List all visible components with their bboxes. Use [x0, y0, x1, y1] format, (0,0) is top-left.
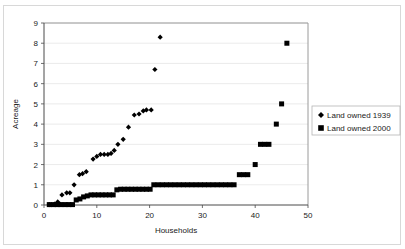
data-point-square [253, 162, 258, 167]
y-tick-label: 7 [34, 59, 39, 68]
x-tick-label: 20 [145, 211, 154, 220]
x-tick-label: 40 [251, 211, 260, 220]
scatter-plot: 012345678901020304050HouseholdsAcreageLa… [0, 0, 405, 249]
data-point-square [245, 172, 250, 177]
x-axis-title: Households [155, 226, 197, 235]
legend-label-2[interactable]: Land owned 2000 [327, 124, 391, 133]
y-tick-label: 0 [34, 201, 39, 210]
legend-marker-square [318, 125, 324, 131]
data-point-square [266, 142, 271, 147]
y-tick-label: 9 [34, 19, 39, 28]
x-tick-label: 30 [198, 211, 207, 220]
y-axis-title: Acreage [11, 99, 20, 129]
plot-background [44, 23, 308, 205]
data-point-square [284, 41, 289, 46]
y-tick-label: 5 [34, 100, 39, 109]
y-tick-label: 3 [34, 140, 39, 149]
data-point-square [232, 182, 237, 187]
y-tick-label: 1 [34, 181, 39, 190]
data-point-square [279, 101, 284, 106]
legend-label-1[interactable]: Land owned 1939 [327, 111, 391, 120]
chart-container: 012345678901020304050HouseholdsAcreageLa… [0, 0, 405, 249]
x-tick-label: 50 [304, 211, 313, 220]
data-point-square [274, 122, 279, 127]
data-point-square [70, 202, 75, 207]
data-point-square [111, 192, 116, 197]
x-tick-label: 0 [42, 211, 47, 220]
y-tick-label: 2 [34, 161, 39, 170]
x-tick-label: 10 [92, 211, 101, 220]
y-tick-label: 8 [34, 39, 39, 48]
y-tick-label: 4 [34, 120, 39, 129]
y-tick-label: 6 [34, 80, 39, 89]
data-point-square [148, 187, 153, 192]
